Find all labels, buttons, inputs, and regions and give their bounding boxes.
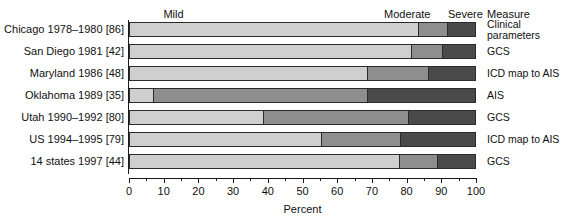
bar-segment-moderate [419, 22, 448, 37]
x-axis-tick-minor [216, 178, 217, 181]
bar-segment-severe [401, 132, 476, 147]
category-label: San Diego 1981 [42] [0, 44, 124, 59]
measure-label: ICD map to AIS [487, 68, 559, 80]
x-axis-tick-label: 50 [296, 185, 308, 197]
bar-segment-mild [129, 66, 368, 81]
stacked-bar-chart: Mild Moderate Severe Measure Chicago 197… [0, 0, 564, 224]
x-axis-tick-major [476, 178, 477, 183]
bar-segment-mild [129, 154, 400, 169]
x-axis-tick-minor [424, 178, 425, 181]
bar-segment-severe [443, 44, 476, 59]
category-label: US 1994–1995 [79] [0, 132, 124, 147]
bar-segment-mild [129, 22, 419, 37]
bar-segment-moderate [400, 154, 438, 169]
bar-row [129, 132, 476, 147]
x-axis-tick-major [198, 178, 199, 183]
x-axis-tick-major [268, 178, 269, 183]
x-axis-tick-major [337, 178, 338, 183]
x-axis-tick-label: 90 [435, 185, 447, 197]
bar-segment-severe [368, 88, 476, 103]
x-axis-tick-major [407, 178, 408, 183]
x-axis-tick-major [233, 178, 234, 183]
measure-label: GCS [487, 156, 510, 168]
bar-segment-moderate [412, 44, 443, 59]
x-axis-tick-minor [320, 178, 321, 181]
x-axis-tick-label: 70 [366, 185, 378, 197]
x-axis-title: Percent [129, 203, 476, 215]
bar-segment-moderate [264, 110, 409, 125]
column-header-severe: Severe [448, 8, 483, 20]
measure-label: AIS [487, 90, 504, 102]
bar-segment-severe [429, 66, 476, 81]
x-axis-tick-major [441, 178, 442, 183]
x-axis-tick-minor [250, 178, 251, 181]
bar-segment-mild [129, 132, 322, 147]
bar-segment-moderate [322, 132, 401, 147]
bar-row [129, 22, 476, 37]
bar-segment-moderate [154, 88, 368, 103]
x-axis-tick-major [303, 178, 304, 183]
x-axis-tick-label: 60 [331, 185, 343, 197]
x-axis-tick-minor [355, 178, 356, 181]
measure-label: ICD map to AIS [487, 134, 559, 146]
column-header-mild: Mild [0, 8, 347, 20]
measure-label: GCS [487, 112, 510, 124]
bar-row [129, 154, 476, 169]
bar-segment-severe [438, 154, 476, 169]
bar-segment-mild [129, 110, 264, 125]
category-label: Utah 1990–1992 [80] [0, 110, 124, 125]
bar-segment-moderate [368, 66, 429, 81]
bar-row [129, 44, 476, 59]
category-label: Chicago 1978–1980 [86] [0, 22, 124, 37]
x-axis-tick-label: 10 [158, 185, 170, 197]
x-axis-tick-label: 100 [467, 185, 485, 197]
x-axis-tick-major [129, 178, 130, 183]
plot-area [129, 22, 476, 172]
bar-row [129, 88, 476, 103]
bar-segment-severe [409, 110, 476, 125]
bar-segment-severe [448, 22, 476, 37]
x-axis-tick-label: 40 [262, 185, 274, 197]
measure-label: Clinical parameters [487, 19, 540, 42]
measure-label: GCS [487, 46, 510, 58]
column-header-moderate: Moderate [384, 8, 430, 20]
x-axis-tick-label: 20 [192, 185, 204, 197]
x-axis-tick-minor [181, 178, 182, 181]
x-axis-tick-minor [285, 178, 286, 181]
x-axis-tick-minor [459, 178, 460, 181]
bar-row [129, 66, 476, 81]
x-axis-tick-minor [146, 178, 147, 181]
category-label: Oklahoma 1989 [35] [0, 88, 124, 103]
category-label: 14 states 1997 [44] [0, 154, 124, 169]
x-axis-tick-label: 80 [400, 185, 412, 197]
x-axis-tick-major [372, 178, 373, 183]
bar-segment-mild [129, 88, 154, 103]
bar-row [129, 110, 476, 125]
bar-segment-mild [129, 44, 412, 59]
x-axis-tick-label: 30 [227, 185, 239, 197]
x-axis-tick-minor [389, 178, 390, 181]
x-axis-tick-label: 0 [126, 185, 132, 197]
x-axis-tick-major [164, 178, 165, 183]
category-label: Maryland 1986 [48] [0, 66, 124, 81]
